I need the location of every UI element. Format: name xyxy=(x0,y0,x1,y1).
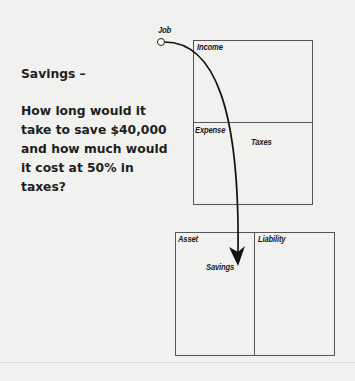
cashflow-arrow xyxy=(0,0,355,381)
arrow-head-icon xyxy=(229,246,245,266)
job-node-icon xyxy=(158,39,165,46)
page-rule xyxy=(0,362,355,363)
arrow-line xyxy=(165,42,239,255)
